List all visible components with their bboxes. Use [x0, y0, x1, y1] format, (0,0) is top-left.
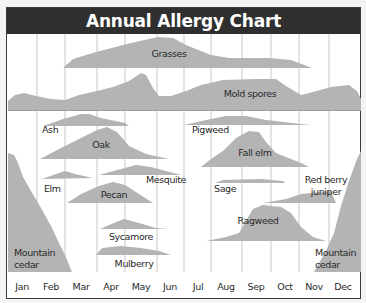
red-berry-juniper-label-2: juniper: [310, 186, 342, 197]
month-label: Feb: [43, 281, 59, 292]
month-label: Mar: [72, 281, 89, 292]
ragweed-label: Ragweed: [238, 215, 279, 226]
chart-frame: Grasses Mold spores Ash Oak Elm Mesquite…: [6, 7, 361, 299]
month-label: Dec: [334, 281, 352, 292]
grasses-label: Grasses: [152, 48, 187, 59]
month-label: Apr: [103, 281, 119, 292]
mulberry-shape: [96, 246, 171, 255]
chart-plot: Grasses Mold spores Ash Oak Elm Mesquite…: [7, 8, 362, 300]
elm-shape: [42, 171, 93, 179]
pecan-label: Pecan: [101, 189, 128, 200]
mesquite-label: Mesquite: [146, 174, 187, 185]
pigweed-label: Pigweed: [192, 124, 229, 135]
mold-spores-label: Mold spores: [224, 88, 277, 99]
red-berry-juniper-label-1: Red berry: [305, 174, 348, 185]
fall-elm-label: Fall elm: [238, 147, 271, 158]
ash-label: Ash: [42, 124, 59, 135]
month-label: Sep: [247, 281, 264, 292]
month-label: Oct: [277, 281, 293, 292]
mountain-cedar-right-label-2: cedar: [315, 259, 340, 270]
sycamore-label: Sycamore: [109, 231, 154, 242]
chart-title: Annual Allergy Chart: [7, 8, 360, 34]
sycamore-shape: [100, 219, 169, 229]
month-label: May: [132, 281, 151, 292]
grasses-shape: [63, 37, 312, 68]
month-label: Jul: [192, 281, 204, 292]
month-label: Aug: [217, 281, 235, 292]
month-label: Jun: [162, 281, 177, 292]
mountain-cedar-left-label-2: cedar: [14, 259, 39, 270]
elm-label: Elm: [44, 183, 61, 194]
month-label: Jan: [14, 281, 29, 292]
month-axis: Jan Feb Mar Apr May Jun Jul Aug Sep Oct …: [14, 281, 352, 292]
mountain-cedar-left-label-1: Mountain: [14, 247, 55, 258]
sage-label: Sage: [214, 183, 237, 194]
month-label: Nov: [305, 281, 323, 292]
mountain-cedar-right-label-1: Mountain: [315, 247, 356, 258]
oak-label: Oak: [92, 139, 110, 150]
mulberry-label: Mulberry: [115, 258, 155, 269]
